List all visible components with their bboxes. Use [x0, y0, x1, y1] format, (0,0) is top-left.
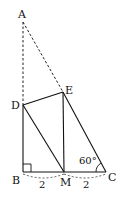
label-E: E — [65, 84, 73, 97]
segment-AE-dashed — [23, 22, 63, 92]
segment-DE — [23, 92, 63, 105]
label-C: C — [108, 171, 116, 184]
segment-DM — [23, 105, 64, 172]
length-BM: 2 — [39, 179, 45, 190]
label-A: A — [17, 8, 27, 21]
label-M: M — [60, 176, 71, 189]
angle-arc-C — [96, 163, 101, 172]
label-B: B — [12, 174, 20, 187]
dimension-arc-BM — [23, 174, 64, 178]
segment-EM — [63, 92, 64, 172]
label-D: D — [11, 99, 20, 112]
angle-C-label: 60° — [79, 155, 97, 166]
right-angle-mark — [23, 164, 31, 172]
length-MC: 2 — [83, 179, 89, 190]
geometry-diagram: A D E B M C 2 2 60° — [0, 0, 123, 197]
